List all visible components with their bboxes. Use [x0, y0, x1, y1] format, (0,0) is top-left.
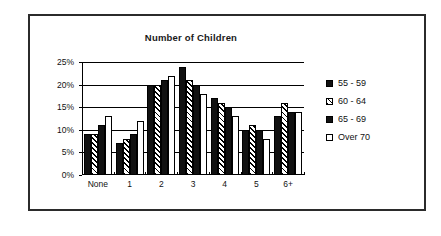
x-axis-tick-label: 3	[191, 179, 196, 189]
bar	[186, 80, 193, 175]
bar-group	[82, 62, 114, 175]
y-axis-tick-label: 0%	[34, 170, 74, 180]
bar	[288, 112, 295, 175]
bar	[137, 121, 144, 175]
x-tick-mark	[145, 172, 146, 175]
legend-label: Over 70	[338, 132, 370, 142]
bar	[105, 116, 112, 175]
legend-item[interactable]: 60 - 64	[326, 96, 370, 106]
y-axis-tick-label: 10%	[34, 125, 74, 135]
bar	[256, 130, 263, 175]
bar	[242, 130, 249, 175]
legend-swatch-icon	[326, 80, 333, 87]
x-tick-mark	[272, 172, 273, 175]
bar	[154, 85, 161, 175]
bar	[116, 143, 123, 175]
bar-group	[145, 62, 177, 175]
bar	[123, 139, 130, 175]
bar	[218, 103, 225, 175]
y-axis-tick-label: 15%	[34, 102, 74, 112]
legend-label: 55 - 59	[338, 78, 366, 88]
bar	[211, 98, 218, 175]
x-axis-tick-label: 5	[254, 179, 259, 189]
bar	[168, 76, 175, 175]
x-axis-tick-label: 1	[127, 179, 132, 189]
bar	[281, 103, 288, 175]
y-axis-tick-label: 20%	[34, 80, 74, 90]
legend-label: 60 - 64	[338, 96, 366, 106]
bar-group	[114, 62, 146, 175]
bar	[200, 94, 207, 175]
x-axis-tick-label: None	[88, 179, 108, 189]
chart-title: Number of Children	[30, 32, 352, 43]
bar	[263, 139, 270, 175]
bar	[91, 134, 98, 175]
bar	[295, 112, 302, 175]
bar-group	[209, 62, 241, 175]
bar	[274, 116, 281, 175]
legend-swatch-icon	[326, 134, 333, 141]
y-axis-tick-label: 5%	[34, 147, 74, 157]
x-tick-mark	[304, 172, 305, 175]
bar	[161, 80, 168, 175]
plot-area	[82, 62, 304, 175]
legend-swatch-icon	[326, 116, 333, 123]
legend-label: 65 - 69	[338, 114, 366, 124]
bar-group	[241, 62, 273, 175]
bar	[225, 107, 232, 175]
x-axis-tick-label: 2	[159, 179, 164, 189]
chart-legend: 55 - 5960 - 6465 - 69Over 70	[326, 78, 370, 150]
bar-group	[177, 62, 209, 175]
x-axis-tick-label: 4	[222, 179, 227, 189]
legend-item[interactable]: 55 - 59	[326, 78, 370, 88]
bar	[130, 134, 137, 175]
x-axis-tick-label: 6+	[283, 179, 293, 189]
bar-groups	[82, 62, 304, 175]
chart-frame: Number of Children 0%5%10%15%20%25% None…	[28, 14, 426, 211]
bar	[193, 85, 200, 175]
bar	[147, 85, 154, 175]
y-tick-mark	[79, 175, 82, 176]
y-axis-tick-label: 25%	[34, 57, 74, 67]
bar	[98, 125, 105, 175]
legend-swatch-icon	[326, 98, 333, 105]
bar-group	[272, 62, 304, 175]
bar	[232, 116, 239, 175]
bar	[249, 125, 256, 175]
legend-item[interactable]: Over 70	[326, 132, 370, 142]
x-tick-mark	[177, 172, 178, 175]
legend-item[interactable]: 65 - 69	[326, 114, 370, 124]
bar	[84, 134, 91, 175]
bar	[179, 67, 186, 175]
